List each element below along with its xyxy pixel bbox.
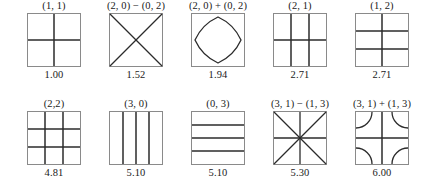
nodal-pattern-panel	[27, 13, 81, 67]
nodal-pattern-panel	[191, 13, 245, 67]
mode-label: (3, 1) + (1, 3)	[353, 98, 411, 111]
mode-label: (3, 1) − (1, 3)	[271, 98, 329, 111]
mode-cell-31-plus-13: (3, 1) + (1, 3) 6.00	[342, 98, 422, 196]
mode-cell-2-2: (2,2) 4.81	[14, 98, 94, 196]
mode-shape-figure: (1, 1) 1.00 (2, 0) − (0, 2) 1.52	[0, 0, 424, 196]
frequency-label: 1.94	[209, 69, 228, 81]
mode-cell-1-1: (1, 1) 1.00	[14, 0, 94, 98]
mode-label: (3, 0)	[124, 98, 147, 111]
mode-cell-0-3: (0, 3) 5.10	[178, 98, 258, 196]
frequency-label: 2.71	[373, 69, 392, 81]
mode-cell-1-2: (1, 2) 2.71	[342, 0, 422, 98]
mode-label: (1, 2)	[370, 0, 393, 13]
mode-label: (2, 0) + (0, 2)	[189, 0, 247, 13]
frequency-label: 6.00	[373, 167, 392, 179]
mode-label: (2, 0) − (0, 2)	[107, 0, 165, 13]
mode-cell-3-0: (3, 0) 5.10	[96, 98, 176, 196]
frequency-label: 5.10	[127, 167, 146, 179]
nodal-pattern-panel	[355, 13, 409, 67]
mode-label: (2, 1)	[288, 0, 311, 13]
mode-cell-20-minus-02: (2, 0) − (0, 2) 1.52	[96, 0, 176, 98]
frequency-label: 2.71	[291, 69, 310, 81]
nodal-pattern-panel	[109, 13, 163, 67]
mode-label: (2,2)	[44, 98, 65, 111]
frequency-label: 4.81	[45, 167, 64, 179]
nodal-pattern-panel	[109, 111, 163, 165]
figure-row-top: (1, 1) 1.00 (2, 0) − (0, 2) 1.52	[0, 0, 424, 98]
mode-cell-31-minus-13: (3, 1) − (1, 3) 5.30	[260, 98, 340, 196]
frequency-label: 5.10	[209, 167, 228, 179]
nodal-pattern-panel	[355, 111, 409, 165]
figure-row-bottom: (2,2) 4.81 (3, 0)	[0, 98, 424, 196]
nodal-pattern-panel	[191, 111, 245, 165]
nodal-pattern-panel	[27, 111, 81, 165]
mode-cell-2-1: (2, 1) 2.71	[260, 0, 340, 98]
mode-label: (1, 1)	[42, 0, 65, 13]
frequency-label: 1.00	[45, 69, 64, 81]
mode-cell-20-plus-02: (2, 0) + (0, 2) 1.94	[178, 0, 258, 98]
nodal-pattern-panel	[273, 13, 327, 67]
nodal-pattern-panel	[273, 111, 327, 165]
mode-label: (0, 3)	[206, 98, 229, 111]
frequency-label: 1.52	[127, 69, 146, 81]
frequency-label: 5.30	[291, 167, 310, 179]
